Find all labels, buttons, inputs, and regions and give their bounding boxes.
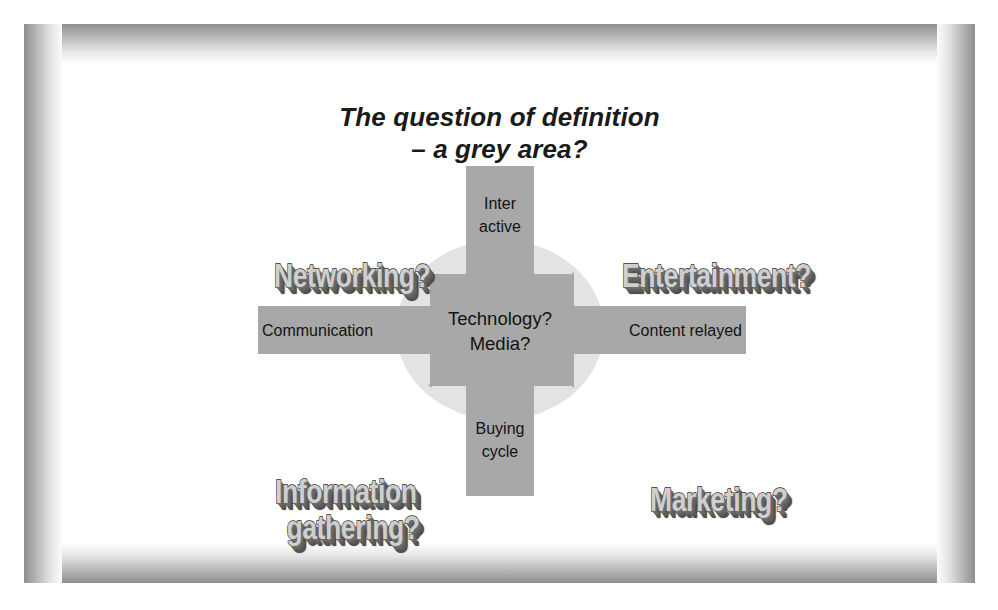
arrow-right-label: Content relayed — [629, 322, 742, 339]
frame-bevel-right — [937, 24, 975, 583]
converging-arrows-diagram: Inter active Communication Content relay… — [62, 62, 937, 545]
picture-frame: The question of definition – a grey area… — [24, 24, 975, 583]
corner-label-information-line1: Information — [275, 473, 417, 510]
corner-label-entertainment: Entertainment? — [622, 258, 811, 294]
slide-canvas: The question of definition – a grey area… — [0, 0, 998, 610]
arrow-top-label-line2: active — [479, 218, 521, 235]
corner-label-information: Information gathering? — [272, 474, 420, 545]
corner-label-marketing-text: Marketing? — [650, 481, 788, 518]
arrow-left-label: Communication — [262, 322, 373, 339]
corner-label-marketing: Marketing? — [650, 482, 788, 518]
frame-bevel-top — [24, 24, 975, 62]
corner-label-entertainment-text: Entertainment? — [622, 257, 811, 294]
arrow-top-label-line1: Inter — [484, 195, 517, 212]
arrow-bottom-label-line1: Buying — [476, 420, 525, 437]
slide-inner-canvas: The question of definition – a grey area… — [62, 62, 937, 545]
corner-label-networking-text: Networking? — [274, 257, 430, 294]
arrow-bottom-label-line2: cycle — [482, 443, 519, 460]
center-label-line1: Technology? — [448, 308, 552, 329]
center-label-line2: Media? — [470, 333, 531, 354]
corner-label-networking: Networking? — [274, 258, 430, 294]
frame-bevel-bottom — [24, 545, 975, 583]
corner-label-information-line2: gathering? — [286, 510, 419, 546]
frame-bevel-left — [24, 24, 62, 583]
